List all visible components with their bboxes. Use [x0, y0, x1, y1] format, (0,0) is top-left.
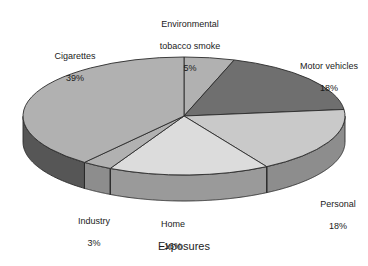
pie-chart-figure: Environmental tobacco smoke 5% Motor veh…	[0, 0, 368, 266]
slice-label-value: 18%	[329, 221, 347, 231]
slice-label-value: 39%	[66, 73, 84, 83]
chart-caption: Exposures	[0, 240, 368, 252]
slice-label-line1: Home	[161, 219, 185, 229]
slice-label-line1: Industry	[78, 216, 110, 226]
slice-label-line1: Cigarettes	[54, 51, 95, 61]
slice-label-environmental-tobacco-smoke: Environmental tobacco smoke 5%	[130, 8, 240, 85]
slice-label-cigarettes: Cigarettes 39%	[30, 40, 110, 95]
slice-label-line1: Motor vehicles	[300, 61, 358, 71]
slice-label-personal: Personal 18%	[298, 188, 368, 243]
slice-label-line1: Personal	[320, 199, 356, 209]
slice-label-home: Home 16%	[138, 208, 198, 263]
slice-label-line1: Environmental	[161, 19, 219, 29]
slice-label-value: 5%	[184, 63, 197, 73]
slice-label-motor-vehicles: Motor vehicles 18%	[280, 50, 368, 105]
slice-label-value: 18%	[320, 83, 338, 93]
slice-label-line2: tobacco smoke	[160, 41, 221, 51]
